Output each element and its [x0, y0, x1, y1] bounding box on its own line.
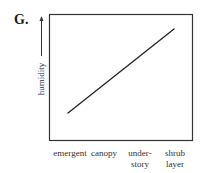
x-tick-label-line2: story: [128, 159, 151, 170]
x-tick-label-line1: under-: [128, 148, 151, 159]
x-tick-label-line1: shrub: [165, 148, 185, 159]
y-axis-label: humidity: [37, 63, 46, 96]
x-tick-emergent: emergent: [53, 148, 86, 159]
x-tick-understory: under- story: [128, 148, 151, 170]
x-tick-label-line1: canopy: [91, 148, 117, 159]
x-tick-canopy: canopy: [91, 148, 117, 159]
plot-frame: [50, 15, 193, 141]
y-axis-arrow-icon: [40, 16, 44, 56]
x-tick-label-line1: emergent: [53, 148, 86, 159]
x-tick-label-line2: layer: [165, 159, 185, 170]
x-tick-shrub-layer: shrub layer: [165, 148, 185, 170]
humidity-trend-line: [68, 29, 174, 113]
